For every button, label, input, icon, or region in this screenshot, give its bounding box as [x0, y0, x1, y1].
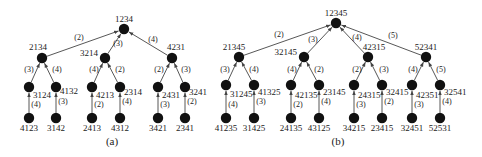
node-label: 2134: [29, 42, 48, 52]
node-label: 4132: [60, 86, 78, 96]
edge-label: (3): [160, 100, 170, 109]
node-label: 2314: [124, 87, 143, 97]
tree-node: [119, 24, 129, 34]
tree-node: [407, 80, 417, 90]
edge-label: (2): [187, 97, 197, 106]
tree-node: [153, 82, 163, 92]
node-label: 31245: [230, 89, 253, 99]
edge-label: (3): [181, 65, 191, 74]
edge-label: (3): [256, 97, 266, 106]
edge-label: (2): [115, 65, 125, 74]
tree-node: [37, 53, 47, 63]
tree-node: [167, 53, 177, 63]
node-label: 2341: [176, 123, 194, 133]
edge-label: (2): [352, 65, 362, 74]
tree-node: [314, 80, 324, 90]
edge-label: (4): [287, 65, 297, 74]
tree-node: [286, 80, 296, 90]
tree-node: [299, 52, 309, 62]
node-label: 42315: [363, 42, 386, 52]
tree-node: [249, 80, 259, 90]
tree-node: [407, 113, 417, 123]
node-label: 24315: [358, 90, 381, 100]
node-label: 21345: [223, 42, 246, 52]
edge-label: (3): [58, 97, 68, 106]
node-label: 41325: [258, 87, 281, 97]
tree-node: [115, 82, 125, 92]
edge-label: (5): [388, 31, 398, 40]
node-label: 23415: [371, 123, 394, 133]
edge-label: (3): [308, 35, 318, 44]
node-label: 3142: [47, 123, 65, 133]
edge-label: (3): [113, 39, 123, 48]
node-label: 12345: [325, 8, 348, 18]
tree-node: [221, 113, 231, 123]
node-label: 42351: [416, 90, 439, 100]
node-label: 3421: [149, 123, 167, 133]
tree-node: [363, 52, 373, 62]
edge-label: (4): [122, 97, 132, 106]
tree-node: [51, 113, 61, 123]
tree-node: [377, 113, 387, 123]
edge-label: (4): [89, 65, 99, 74]
tree-node: [377, 80, 387, 90]
edge-label: (3): [220, 65, 230, 74]
edge-label: (5): [436, 65, 446, 74]
edge-label: (3): [356, 100, 366, 109]
node-label: 32415: [386, 87, 409, 97]
node-label: 34215: [343, 123, 366, 133]
edge-label: (2): [293, 100, 303, 109]
permutation-tree-diagram: (2)(3)(4)(3)(4)(4)(2)(2)(3)(4)3124(3)413…: [0, 0, 482, 157]
caption-b: (b): [332, 135, 345, 148]
tree-node: [180, 82, 190, 92]
tree-node: [24, 82, 34, 92]
edge-label: (3): [24, 65, 34, 74]
tree-node: [331, 18, 341, 28]
node-label: 32145: [275, 47, 298, 57]
edge-label: (3): [414, 100, 424, 109]
node-label: 43125: [308, 123, 331, 133]
node-label: 2413: [83, 123, 102, 133]
edge-label: (3): [379, 65, 389, 74]
tree-node: [87, 82, 97, 92]
tree-node: [234, 52, 244, 62]
edge-label: (4): [148, 35, 158, 44]
edge-label: (4): [31, 100, 41, 109]
caption-a: (a): [106, 135, 119, 148]
tree-node: [421, 52, 431, 62]
edge-label: (2): [154, 65, 164, 74]
node-label: 3241: [189, 87, 207, 97]
node-label: 41235: [215, 123, 238, 133]
node-label: 4213: [96, 90, 115, 100]
edge-label: (2): [384, 97, 394, 106]
edge-label: (4): [352, 33, 362, 42]
tree-a: (2)(3)(4)(3)(4)(4)(2)(2)(3)(4)3124(3)413…: [20, 14, 207, 133]
node-label: 4123: [20, 123, 39, 133]
tree-node: [286, 113, 296, 123]
tree-node: [435, 113, 445, 123]
tree-node: [153, 113, 163, 123]
node-label: 23145: [323, 87, 346, 97]
edge-label: (4): [249, 65, 259, 74]
tree-node: [100, 53, 110, 63]
node-label: 32541: [444, 87, 467, 97]
edge-label: (4): [321, 97, 331, 106]
tree-b: (2)(3)(4)(5)(3)(4)(4)(2)(2)(3)(4)(5)(4)3…: [215, 8, 467, 133]
edge-arrow: [371, 62, 380, 80]
edge-label: (4): [442, 97, 452, 106]
node-label: 52341: [415, 42, 438, 52]
node-label: 3124: [33, 90, 52, 100]
edge-label: (4): [228, 100, 238, 109]
tree-node: [180, 113, 190, 123]
tree-node: [221, 80, 231, 90]
node-label: 2431: [162, 90, 180, 100]
edge-label: (2): [74, 33, 84, 42]
node-label: 4312: [111, 123, 129, 133]
node-label: 31425: [243, 123, 266, 133]
tree-node: [314, 113, 324, 123]
tree-node: [24, 113, 34, 123]
tree-node: [349, 80, 359, 90]
edge-label: (2): [314, 65, 324, 74]
tree-node: [87, 113, 97, 123]
edge-label: (2): [94, 100, 104, 109]
